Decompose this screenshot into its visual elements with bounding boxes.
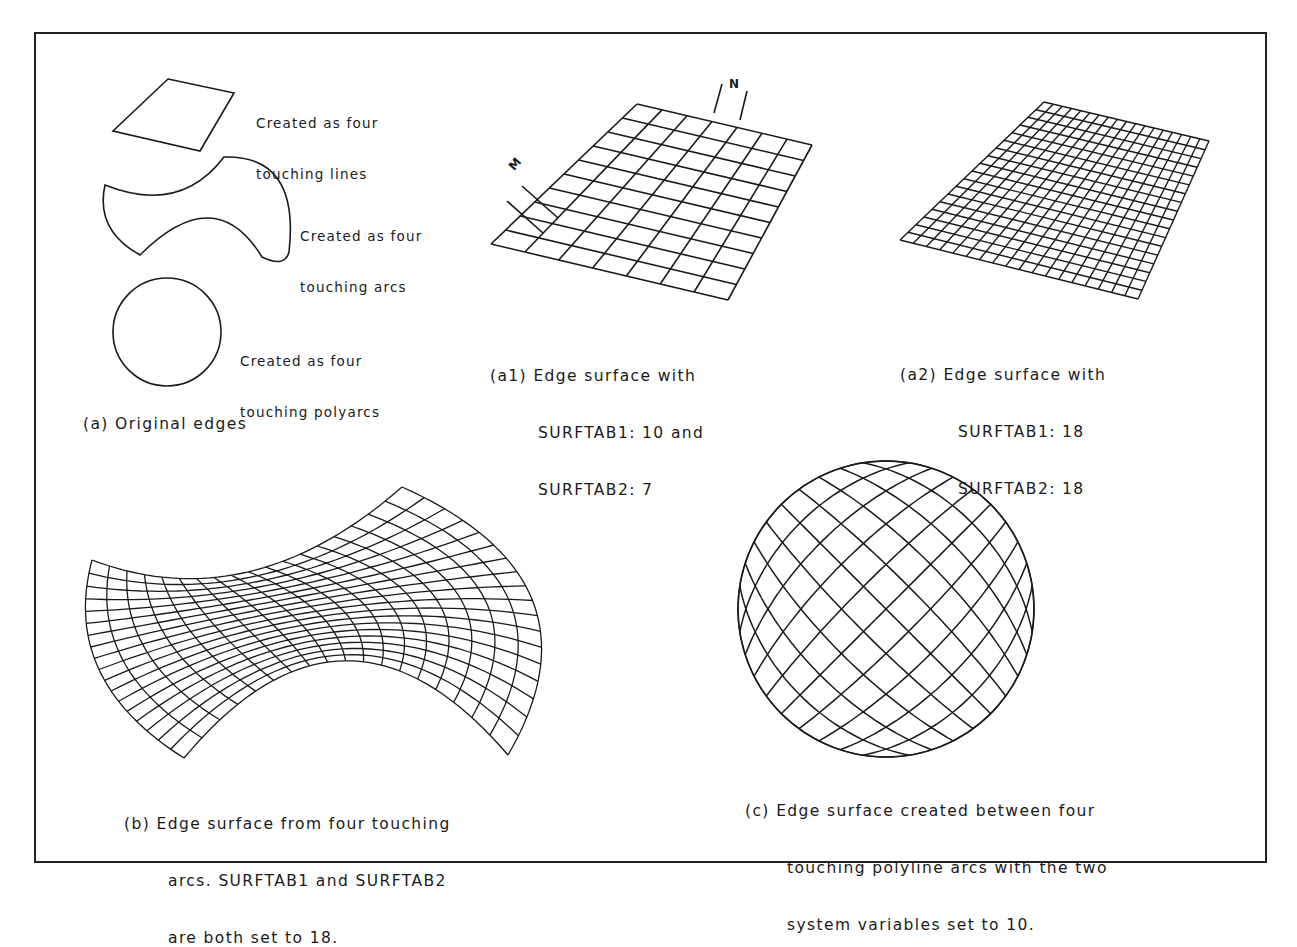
- caption-a2-line2: SURFTAB1: 18: [900, 423, 1106, 442]
- label-four-polyarcs: Created as four touching polyarcs: [240, 319, 380, 438]
- label-line: touching polyarcs: [240, 404, 380, 421]
- caption-a2-line3: SURFTAB2: 18: [900, 480, 1106, 499]
- label-four-arcs: Created as four touching arcs: [300, 194, 422, 313]
- label-line: Created as four: [300, 228, 422, 245]
- caption-a: (a) Original edges: [83, 415, 247, 434]
- caption-b-line2: arcs. SURFTAB1 and SURFTAB2: [124, 872, 451, 891]
- caption-a1-line1: (a1) Edge surface with: [490, 367, 704, 386]
- label-line: touching lines: [256, 166, 378, 183]
- caption-b-line1: (b) Edge surface from four touching: [124, 815, 451, 834]
- caption-a2-prefix: (a2): [900, 366, 937, 384]
- caption-a2-text: Edge surface with: [943, 366, 1106, 384]
- label-line: touching arcs: [300, 279, 422, 296]
- edge-surface-a2-mesh: [900, 102, 1209, 299]
- caption-a2: (a2) Edge surface with SURFTAB1: 18 SURF…: [900, 328, 1106, 518]
- caption-a1: (a1) Edge surface with SURFTAB1: 10 and …: [490, 329, 704, 519]
- caption-c: (c) Edge surface created between four to…: [745, 764, 1108, 947]
- edge-four-polyarcs: [113, 278, 221, 386]
- m-n-direction-markers: [507, 84, 747, 233]
- edge-surface-b-mesh: [85, 487, 541, 758]
- caption-a1-prefix: (a1): [490, 367, 527, 385]
- n-direction-label: N: [729, 77, 739, 91]
- label-line: Created as four: [240, 353, 380, 370]
- caption-c-line1: (c) Edge surface created between four: [745, 802, 1108, 821]
- caption-c-line2: touching polyline arcs with the two: [745, 859, 1108, 878]
- caption-b: (b) Edge surface from four touching arcs…: [124, 777, 451, 947]
- edge-four-lines: [113, 79, 234, 151]
- label-four-lines: Created as four touching lines: [256, 81, 378, 200]
- caption-b-line3: are both set to 18.: [124, 929, 451, 947]
- caption-a1-line3: SURFTAB2: 7: [490, 481, 704, 500]
- caption-a1-text: Edge surface with: [533, 367, 696, 385]
- label-line: Created as four: [256, 115, 378, 132]
- caption-a1-line2: SURFTAB1: 10 and: [490, 424, 704, 443]
- caption-c-line3: system variables set to 10.: [745, 916, 1108, 935]
- caption-a2-line1: (a2) Edge surface with: [900, 366, 1106, 385]
